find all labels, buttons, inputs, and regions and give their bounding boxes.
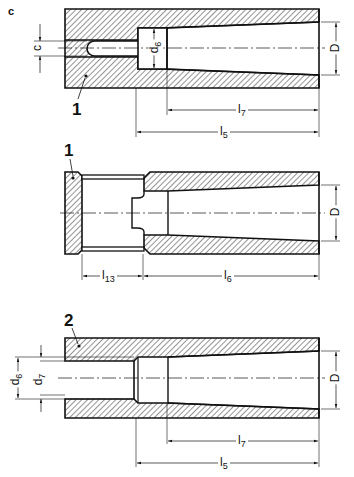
section-bottom-wall [65, 57, 319, 88]
dim-d6: d6 [9, 372, 24, 388]
view-middle [60, 159, 340, 280]
section-top-wall [65, 9, 319, 40]
part-label-2: 2 [64, 312, 73, 329]
dim-d7: d7 [32, 374, 47, 386]
section-top-wall [144, 172, 319, 191]
dim-l7: l7 [236, 103, 248, 118]
slot [87, 41, 145, 56]
part-label-1: 1 [72, 101, 81, 118]
dim-c: c [31, 45, 43, 51]
dim-l5: l5 [218, 456, 230, 471]
view-bottom [15, 328, 340, 467]
section-bottom-wall [144, 235, 319, 254]
section-top-wall [65, 338, 319, 361]
dim-l13: l13 [100, 269, 117, 284]
dim-D: D [329, 206, 341, 219]
dim-l5: l5 [218, 125, 230, 140]
dim-l7: l7 [236, 434, 248, 449]
dim-D: D [329, 372, 341, 385]
panel-letter: c [8, 6, 14, 17]
section-bottom-wall [65, 399, 319, 418]
part-label-1: 1 [64, 142, 73, 159]
dim-d6: d6 [148, 40, 163, 56]
technical-drawing [0, 0, 354, 477]
dim-l6: l6 [222, 269, 234, 284]
dim-D: D [329, 42, 341, 55]
